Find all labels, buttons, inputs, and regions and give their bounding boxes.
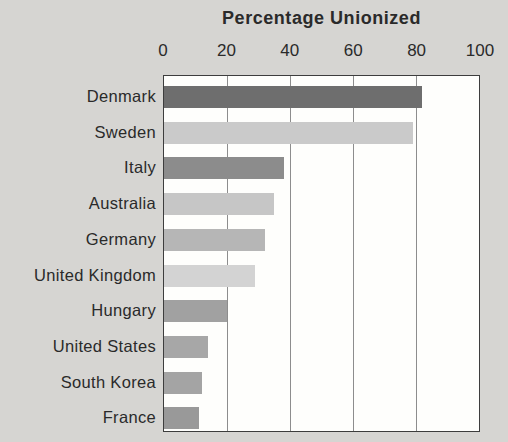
x-axis: 0 20 40 60 80 100 xyxy=(163,41,480,65)
chart-title: Percentage Unionized xyxy=(163,8,480,29)
bar-united-kingdom xyxy=(164,265,255,287)
x-axis-tick-20: 20 xyxy=(217,41,236,61)
bar-united-states xyxy=(164,336,208,358)
category-label-france: France xyxy=(0,406,156,428)
x-axis-tick-100: 100 xyxy=(466,41,494,61)
x-axis-tick-60: 60 xyxy=(344,41,363,61)
category-label-united-kingdom: United Kingdom xyxy=(0,264,156,286)
category-label-sweden: Sweden xyxy=(0,121,156,143)
bar-sweden xyxy=(164,122,413,144)
bar-denmark xyxy=(164,86,422,108)
bar-hungary xyxy=(164,300,227,322)
gridline-80 xyxy=(416,76,417,431)
bar-south-korea xyxy=(164,372,202,394)
x-axis-tick-40: 40 xyxy=(280,41,299,61)
bar-france xyxy=(164,407,199,429)
category-label-hungary: Hungary xyxy=(0,299,156,321)
bar-germany xyxy=(164,229,265,251)
bar-chart: Percentage Unionized 0 20 40 60 80 100 D… xyxy=(0,0,508,442)
category-label-united-states: United States xyxy=(0,335,156,357)
category-label-south-korea: South Korea xyxy=(0,371,156,393)
category-label-australia: Australia xyxy=(0,192,156,214)
bar-australia xyxy=(164,193,274,215)
plot-area xyxy=(163,75,480,432)
category-label-denmark: Denmark xyxy=(0,85,156,107)
x-axis-tick-0: 0 xyxy=(158,41,167,61)
category-label-italy: Italy xyxy=(0,156,156,178)
x-axis-tick-80: 80 xyxy=(407,41,426,61)
category-label-germany: Germany xyxy=(0,228,156,250)
bar-italy xyxy=(164,157,284,179)
category-labels: DenmarkSwedenItalyAustraliaGermanyUnited… xyxy=(0,75,156,432)
